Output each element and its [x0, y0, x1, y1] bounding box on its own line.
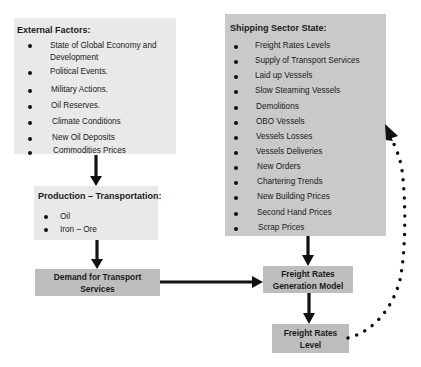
feedback-dotted-arrow: [348, 124, 405, 338]
connector-arrows: [0, 0, 421, 367]
arrow-external-to-production: [90, 155, 102, 186]
arrow-production-to-demand: [91, 240, 103, 269]
arrow-shipping-to-model: [302, 236, 314, 266]
arrow-demand-to-model: [160, 276, 263, 288]
arrow-model-to-level: [303, 293, 315, 324]
